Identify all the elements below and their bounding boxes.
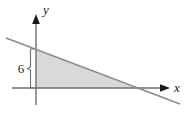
x-axis-label: x xyxy=(173,80,180,95)
x-axis-arrow-icon xyxy=(160,84,170,92)
y-axis-label: y xyxy=(41,2,49,17)
measurement-brace xyxy=(28,49,34,88)
boundary-line xyxy=(6,38,180,104)
figure-canvas: 6 y x xyxy=(0,0,185,119)
y-axis-arrow-icon xyxy=(32,14,40,24)
measurement-label: 6 xyxy=(18,61,25,76)
math-figure: 6 y x xyxy=(0,0,185,119)
